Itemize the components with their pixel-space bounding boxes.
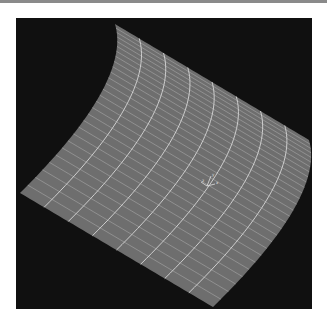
svg-text:z: z — [202, 178, 204, 183]
wireframe-surface — [20, 24, 311, 307]
surface-render: xyz — [0, 0, 327, 324]
